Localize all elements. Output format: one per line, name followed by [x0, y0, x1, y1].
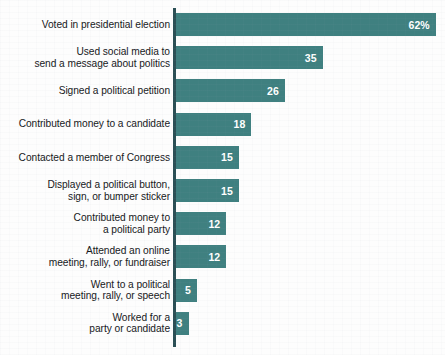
category-label: Used social media to send a message abou… [0, 46, 170, 69]
bar[interactable]: 5 [176, 279, 197, 302]
bar-value-label: 62% [408, 19, 429, 31]
bar-wrapper: 62% [176, 13, 436, 36]
bar-wrapper: 3 [176, 312, 189, 335]
bar-row: Attended an online meeting, rally, or fu… [0, 245, 445, 268]
bar-row: Went to a political meeting, rally, or s… [0, 279, 445, 302]
bar-row: Voted in presidential election62% [0, 13, 445, 36]
bar[interactable]: 62% [176, 13, 436, 36]
bar-value-label: 5 [185, 284, 191, 296]
bar[interactable]: 12 [176, 245, 226, 268]
category-label: Displayed a political button, sign, or b… [0, 179, 170, 202]
bar-wrapper: 35 [176, 46, 323, 69]
bar-wrapper: 12 [176, 245, 226, 268]
bar-row: Used social media to send a message abou… [0, 46, 445, 69]
bar[interactable]: 26 [176, 79, 285, 102]
bar-value-label: 3 [177, 317, 183, 329]
bar-value-label: 15 [221, 151, 233, 163]
bar-row: Worked for a party or candidate3 [0, 312, 445, 335]
bar-value-label: 12 [208, 251, 220, 263]
bar-value-label: 26 [267, 85, 279, 97]
bar-wrapper: 15 [176, 179, 239, 202]
horizontal-bar-chart: Voted in presidential election62%Used so… [0, 0, 445, 355]
bar-value-label: 18 [234, 118, 246, 130]
bar-wrapper: 18 [176, 113, 251, 136]
category-label: Contributed money to a political party [0, 212, 170, 235]
bar[interactable]: 35 [176, 46, 323, 69]
bar-row: Contributed money to a candidate18 [0, 113, 445, 136]
category-axis-line [173, 8, 176, 347]
category-label: Contributed money to a candidate [0, 118, 170, 130]
bar-wrapper: 15 [176, 146, 239, 169]
bar-row: Signed a political petition26 [0, 79, 445, 102]
bar[interactable]: 18 [176, 113, 251, 136]
bar-row: Contacted a member of Congress15 [0, 146, 445, 169]
bar-wrapper: 26 [176, 79, 285, 102]
bar-wrapper: 12 [176, 212, 226, 235]
bar[interactable]: 15 [176, 179, 239, 202]
bar-value-label: 12 [208, 218, 220, 230]
category-label: Attended an online meeting, rally, or fu… [0, 245, 170, 268]
bar-wrapper: 5 [176, 279, 197, 302]
category-label: Signed a political petition [0, 85, 170, 97]
bar-row: Contributed money to a political party12 [0, 212, 445, 235]
bar-value-label: 15 [221, 185, 233, 197]
category-label: Voted in presidential election [0, 19, 170, 31]
bar-row: Displayed a political button, sign, or b… [0, 179, 445, 202]
bar[interactable]: 3 [176, 312, 189, 335]
bar[interactable]: 15 [176, 146, 239, 169]
bar-value-label: 35 [305, 52, 317, 64]
bar[interactable]: 12 [176, 212, 226, 235]
category-label: Worked for a party or candidate [0, 312, 170, 335]
category-label: Contacted a member of Congress [0, 152, 170, 164]
category-label: Went to a political meeting, rally, or s… [0, 279, 170, 302]
